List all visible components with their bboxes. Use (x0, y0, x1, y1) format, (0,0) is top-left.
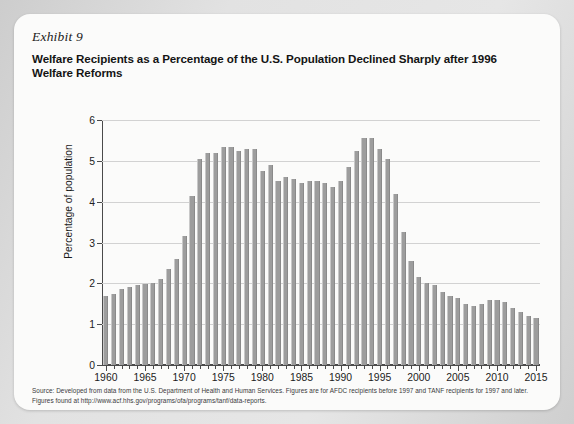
bar-1978 (244, 149, 249, 365)
bar-1989 (330, 187, 335, 365)
x-tick-1982 (278, 365, 279, 369)
y-tick-label-3: 3 (89, 237, 95, 248)
y-tick-label-5: 5 (89, 155, 95, 166)
bar-1990 (338, 181, 343, 365)
x-tick-1984 (294, 365, 295, 369)
x-tick-2012 (513, 365, 514, 369)
bar-1995 (377, 149, 382, 365)
x-tick-1977 (239, 365, 240, 369)
y-tick-label-0: 0 (89, 360, 95, 371)
x-tick-label-2000: 2000 (407, 372, 430, 383)
x-tick-label-1960: 1960 (94, 372, 117, 383)
x-tick-1980 (262, 365, 263, 371)
bar-2014 (526, 316, 531, 365)
x-tick-1986 (309, 365, 310, 369)
x-tick-label-2015: 2015 (525, 372, 548, 383)
bar-2015 (533, 318, 538, 365)
bar-2003 (440, 292, 445, 366)
bar-1963 (127, 287, 132, 365)
bar-1974 (213, 153, 218, 365)
x-tick-2002 (434, 365, 435, 369)
x-tick-1967 (161, 365, 162, 369)
bar-1998 (401, 232, 406, 365)
bar-1982 (275, 181, 280, 365)
bar-2009 (487, 300, 492, 365)
x-tick-1985 (301, 365, 302, 371)
x-tick-label-1970: 1970 (173, 372, 196, 383)
bar-1984 (291, 179, 296, 365)
page-background: Exhibit 9 Welfare Recipients as a Percen… (0, 0, 574, 424)
x-tick-1971 (192, 365, 193, 369)
x-tick-1990 (341, 365, 342, 371)
bar-2006 (463, 304, 468, 365)
source-note: Source: Developed from data from the U.S… (32, 386, 546, 405)
x-tick-label-1990: 1990 (329, 372, 352, 383)
bar-1962 (119, 289, 124, 365)
bar-1973 (205, 153, 210, 365)
x-tick-1999 (411, 365, 412, 369)
bar-2010 (494, 300, 499, 365)
x-tick-1981 (270, 365, 271, 369)
bar-1986 (307, 181, 312, 365)
exhibit-label: Exhibit 9 (32, 30, 542, 45)
bar-2008 (479, 304, 484, 365)
y-tick-label-1: 1 (89, 319, 95, 330)
bar-1964 (135, 285, 140, 365)
x-tick-2008 (481, 365, 482, 369)
bar-1965 (142, 284, 147, 365)
bar-2013 (518, 312, 523, 365)
bar-2004 (447, 296, 452, 365)
x-tick-2001 (427, 365, 428, 369)
x-tick-2004 (450, 365, 451, 369)
exhibit-card: Exhibit 9 Welfare Recipients as a Percen… (14, 14, 560, 410)
bar-1988 (322, 183, 327, 365)
x-tick-2014 (528, 365, 529, 369)
x-tick-2009 (489, 365, 490, 369)
bar-1967 (158, 279, 163, 365)
x-tick-1992 (356, 365, 357, 369)
bar-1979 (252, 149, 257, 365)
x-axis-ticks: 1960196519701975198019851990199520002005… (102, 365, 540, 385)
x-tick-1989 (333, 365, 334, 369)
x-tick-1979 (255, 365, 256, 369)
y-axis-label: Percentage of population (63, 122, 74, 282)
x-tick-1965 (145, 365, 146, 371)
bar-1987 (314, 181, 319, 365)
bar-1968 (166, 269, 171, 365)
x-tick-2010 (497, 365, 498, 371)
bar-2012 (510, 308, 515, 365)
bar-1999 (408, 261, 413, 365)
x-tick-2006 (466, 365, 467, 369)
chart-plot: Percentage of population 0123456 1960196… (32, 92, 544, 380)
x-tick-1968 (168, 365, 169, 369)
x-tick-1962 (122, 365, 123, 369)
x-tick-1963 (129, 365, 130, 369)
bar-1980 (260, 171, 265, 365)
bar-2005 (455, 298, 460, 365)
x-tick-1993 (364, 365, 365, 369)
x-tick-1966 (153, 365, 154, 369)
y-tick-label-4: 4 (89, 196, 95, 207)
x-tick-1975 (223, 365, 224, 371)
x-tick-1983 (286, 365, 287, 369)
x-tick-1961 (114, 365, 115, 369)
x-tick-1994 (372, 365, 373, 369)
plot-area: 0123456 19601965197019751980198519901995… (102, 120, 540, 365)
chart-title: Welfare Recipients as a Percentage of th… (32, 52, 532, 80)
x-tick-1974 (215, 365, 216, 369)
bar-1997 (393, 194, 398, 366)
x-tick-1988 (325, 365, 326, 369)
bar-series (102, 120, 540, 365)
x-tick-2003 (442, 365, 443, 369)
x-tick-1995 (380, 365, 381, 371)
x-tick-2011 (505, 365, 506, 369)
bar-1970 (182, 236, 187, 365)
x-tick-2013 (520, 365, 521, 369)
bar-1996 (385, 159, 390, 365)
bar-1993 (361, 138, 366, 365)
bar-1985 (299, 183, 304, 365)
x-tick-1987 (317, 365, 318, 369)
x-tick-label-1985: 1985 (290, 372, 313, 383)
x-tick-2005 (458, 365, 459, 371)
x-tick-label-1980: 1980 (251, 372, 274, 383)
